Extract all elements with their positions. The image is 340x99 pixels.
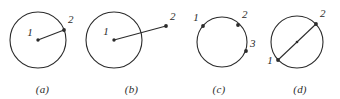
point-dot-a-1 (36, 38, 39, 41)
point-dot-c-3 (244, 49, 248, 53)
point-dot-a-2 (62, 28, 66, 32)
point-label-a-2: 2 (68, 13, 74, 25)
panel-b-diagram: 1 2 (85, 0, 178, 80)
panel-caption-a: (a) (0, 83, 85, 95)
point-dot-c-2 (236, 23, 240, 27)
point-label-c-1: 1 (193, 11, 199, 23)
panel-d: 1 2 (d) (260, 0, 340, 99)
panel-a-diagram: 1 2 (0, 0, 85, 80)
point-label-d-1: 1 (267, 54, 273, 66)
figure-container: 1 2 (a) 1 2 (b) 1 2 3 (c) (0, 0, 340, 99)
panel-a: 1 2 (a) (0, 0, 85, 99)
point-label-d-2: 2 (320, 7, 326, 19)
panel-caption-c: (c) (178, 83, 260, 95)
panel-c-diagram: 1 2 3 (178, 0, 260, 80)
point-dot-b-2 (164, 24, 168, 28)
ray-segment-b (114, 26, 166, 40)
point-label-a-1: 1 (27, 26, 33, 38)
point-label-b-1: 1 (103, 25, 109, 37)
panel-caption-d: (d) (260, 83, 340, 95)
point-label-c-2: 2 (242, 8, 248, 20)
panel-b: 1 2 (b) (85, 0, 178, 99)
point-label-c-3: 3 (249, 37, 256, 49)
point-label-b-2: 2 (170, 10, 176, 22)
point-dot-b-1 (112, 38, 115, 41)
panel-caption-b: (b) (85, 83, 178, 95)
panel-d-diagram: 1 2 (260, 0, 340, 80)
point-dot-d-2 (314, 22, 318, 26)
point-dot-d-1 (276, 58, 280, 62)
radius-segment-a (38, 30, 64, 40)
center-dot-d (296, 41, 299, 44)
panel-c: 1 2 3 (c) (178, 0, 260, 99)
point-dot-c-1 (201, 24, 205, 28)
